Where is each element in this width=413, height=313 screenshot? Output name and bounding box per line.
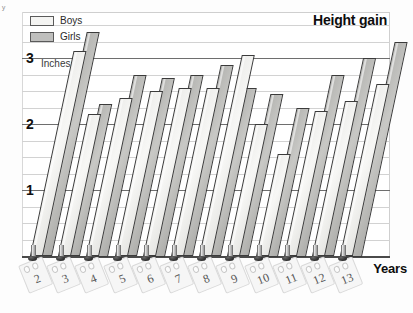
peg-cap-icon [141,256,150,261]
tag-hole-icon [23,265,31,274]
peg-cap-icon [282,256,291,261]
tag-hole-icon [313,262,321,271]
axis-peg-7 [169,245,178,261]
tag-hole-icon [285,262,293,271]
axis-peg-2 [28,245,37,261]
tag-hole-icon [136,265,144,274]
tag-hole-icon [333,265,341,274]
peg-cap-icon [310,256,319,261]
tag-hole-icon [305,265,313,274]
tag-hole-icon [116,262,124,271]
tag-hole-icon [59,262,67,271]
axis-peg-13 [338,245,347,261]
peg-cap-icon [84,256,93,261]
tag-hole-icon [107,265,115,274]
tag-hole-icon [172,262,180,271]
peg-cap-icon [28,256,37,261]
axis-peg-8 [197,245,206,261]
tag-hole-icon [164,265,172,274]
peg-cap-icon [225,256,234,261]
axis-peg-6 [141,245,150,261]
tag-hole-icon [341,262,349,271]
peg-cap-icon [254,256,263,261]
tag-hole-icon [220,265,228,274]
peg-cap-icon [338,256,347,261]
axis-peg-9 [225,245,234,261]
x-axis-title: Years [373,261,407,276]
peg-cap-icon [197,256,206,261]
tag-hole-icon [31,262,39,271]
axis-peg-5 [113,245,122,261]
peg-cap-icon [56,256,65,261]
tag-hole-icon [51,265,59,274]
axis-peg-3 [56,245,65,261]
axis-peg-11 [282,245,291,261]
tag-hole-icon [144,262,152,271]
tag-hole-icon [277,265,285,274]
tag-hole-icon [257,262,265,271]
tag-hole-icon [79,265,87,274]
tag-hole-icon [248,265,256,274]
tag-hole-icon [229,262,237,271]
tag-hole-icon [200,262,208,271]
axis-peg-4 [84,245,93,261]
peg-cap-icon [169,256,178,261]
axis-peg-12 [310,245,319,261]
peg-cap-icon [113,256,122,261]
tag-hole-icon [192,265,200,274]
tag-hole-icon [88,262,96,271]
chart-canvas: ʸ 123 Inches Boys Girls Height gain 2345… [0,0,413,313]
axis-peg-10 [254,245,263,261]
